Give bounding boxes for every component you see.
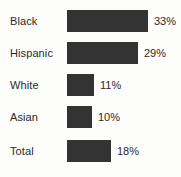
category-label: Asian [10, 106, 38, 128]
value-label: 18% [117, 140, 139, 162]
bar-group: 11% [67, 74, 121, 96]
bar-group: 10% [67, 106, 120, 128]
category-label: Hispanic [10, 42, 53, 64]
category-label: Black [10, 10, 37, 32]
value-label: 29% [144, 42, 166, 64]
bar-chart: Black 33% Hispanic 29% White 11% Asian 1… [0, 0, 181, 177]
value-label: 11% [100, 74, 121, 96]
bar [67, 74, 94, 96]
bar-group: 33% [67, 10, 176, 32]
bar [67, 106, 92, 128]
category-label: Total [10, 140, 34, 162]
bar-group: 18% [67, 140, 139, 162]
chart-row: White 11% [0, 74, 181, 96]
value-label: 33% [154, 10, 176, 32]
chart-row: Asian 10% [0, 106, 181, 128]
bar [67, 10, 148, 32]
category-label: White [10, 74, 39, 96]
chart-row: Total 18% [0, 140, 181, 162]
bar [67, 140, 111, 162]
bar-group: 29% [67, 42, 166, 64]
chart-row: Black 33% [0, 10, 181, 32]
value-label: 10% [98, 106, 120, 128]
chart-row: Hispanic 29% [0, 42, 181, 64]
bar [67, 42, 138, 64]
